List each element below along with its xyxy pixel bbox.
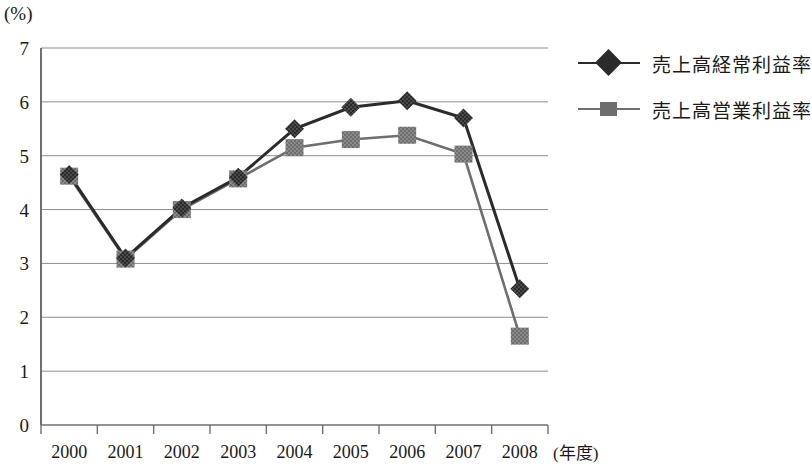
legend-label-ordinary: 売上高経常利益率: [652, 50, 812, 77]
legend-marker-diamond-icon: [578, 51, 640, 75]
x-axis-ticks: [41, 425, 548, 434]
svg-text:6: 6: [20, 92, 30, 113]
svg-text:5: 5: [20, 146, 30, 167]
svg-text:0: 0: [20, 415, 30, 436]
svg-text:7: 7: [20, 38, 30, 59]
y-axis-tick-labels: 01234567: [20, 38, 30, 436]
series-markers-operating: [60, 127, 529, 345]
svg-text:2008: 2008: [502, 442, 538, 462]
svg-text:3: 3: [20, 253, 30, 274]
svg-text:2001: 2001: [108, 442, 144, 462]
chart-legend: 売上高経常利益率 売上高営業利益率: [578, 44, 806, 136]
legend-item-ordinary: 売上高経常利益率: [578, 44, 806, 82]
svg-text:2002: 2002: [164, 442, 200, 462]
gridlines: [41, 48, 548, 371]
svg-text:2: 2: [20, 307, 30, 328]
svg-text:2007: 2007: [446, 442, 482, 462]
svg-text:2000: 2000: [51, 442, 87, 462]
svg-text:2005: 2005: [333, 442, 369, 462]
svg-text:2003: 2003: [220, 442, 256, 462]
svg-text:4: 4: [20, 200, 30, 221]
legend-marker-square-icon: [578, 97, 640, 121]
svg-text:2004: 2004: [277, 442, 313, 462]
legend-label-operating: 売上高営業利益率: [652, 96, 812, 123]
svg-text:1: 1: [20, 361, 30, 382]
svg-text:2006: 2006: [389, 442, 425, 462]
x-axis-caption: (年度): [553, 444, 598, 463]
series-line-operating: [69, 135, 520, 336]
x-axis-tick-labels: 200020012002200320042005200620072008: [51, 442, 538, 462]
legend-item-operating: 売上高営業利益率: [578, 90, 806, 128]
